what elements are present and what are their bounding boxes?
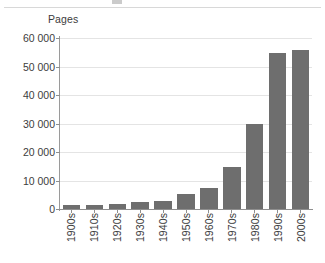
- bar[interactable]: [292, 50, 309, 209]
- bar-slot: [152, 38, 175, 209]
- x-axis-tick-label: 1990s: [272, 213, 284, 242]
- bar-slot: [129, 38, 152, 209]
- bar-slot: [197, 38, 220, 209]
- y-axis-tick-label: 20 000: [23, 146, 55, 158]
- y-axis-tick-label: 60 000: [23, 32, 55, 44]
- y-axis-title: Pages: [48, 13, 78, 25]
- x-axis-tick-label: 1940s: [157, 213, 169, 242]
- x-axis-tick-label: 1970s: [226, 213, 238, 242]
- x-axis-tick-label: 1950s: [180, 213, 192, 242]
- y-axis-tick-label: 0: [49, 203, 55, 215]
- x-axis-tick-label: 2000s: [295, 213, 307, 242]
- bar-slot: [106, 38, 129, 209]
- bar[interactable]: [154, 201, 171, 209]
- y-axis-tick-label: 10 000: [23, 175, 55, 187]
- bar[interactable]: [200, 188, 217, 209]
- bar[interactable]: [131, 202, 148, 209]
- x-axis-tick-label: 1930s: [134, 213, 146, 242]
- y-axis-tick-label: 30 000: [23, 118, 55, 130]
- y-axis-tick-label: 50 000: [23, 61, 55, 73]
- bar-slot: [289, 38, 312, 209]
- cropped-glyph-fragment: [112, 0, 122, 4]
- x-axis-tick-label: 1960s: [203, 213, 215, 242]
- bar-slot: [175, 38, 198, 209]
- x-axis-tick-label: 1900s: [65, 213, 77, 242]
- bar[interactable]: [246, 124, 263, 209]
- x-axis-tick-label: 1920s: [111, 213, 123, 242]
- plot-area: 010 00020 00030 00040 00050 00060 000: [60, 38, 312, 209]
- x-axis-tick-label: 1910s: [88, 213, 100, 242]
- bar-slot: [266, 38, 289, 209]
- y-axis-tick-label: 40 000: [23, 89, 55, 101]
- bar-slot: [220, 38, 243, 209]
- bar-chart-figure: Pages 010 00020 00030 00040 00050 00060 …: [0, 0, 325, 263]
- bar-slot: [60, 38, 83, 209]
- x-axis-tick-label: 1980s: [249, 213, 261, 242]
- bars-group: [60, 38, 312, 209]
- bar[interactable]: [223, 167, 240, 209]
- y-axis-tick-mark: [56, 209, 60, 210]
- bar-slot: [83, 38, 106, 209]
- bar-slot: [243, 38, 266, 209]
- top-divider-rule: [4, 7, 321, 8]
- bar[interactable]: [177, 194, 194, 209]
- bar[interactable]: [269, 53, 286, 209]
